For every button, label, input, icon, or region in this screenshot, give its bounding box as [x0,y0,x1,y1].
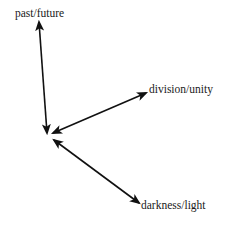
label-darkness-light: darkness/light [141,199,206,212]
label-past-future: past/future [15,7,64,20]
label-division-unity: division/unity [149,83,213,96]
axis-darkness-light-arrow [54,140,139,203]
axes-diagram: past/future division/unity darkness/ligh… [0,0,230,226]
axis-division-unity-arrow [53,93,146,133]
axis-past-future-arrow [39,22,47,133]
